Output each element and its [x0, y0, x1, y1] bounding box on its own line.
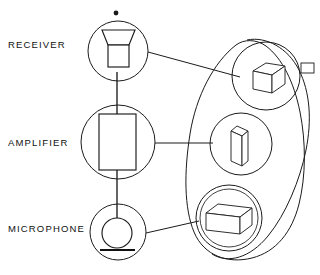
receiver-knob-icon [114, 11, 119, 16]
plate-component-group [210, 113, 272, 175]
receiver-horn-icon [102, 30, 135, 45]
connector-microphone-to-box [146, 221, 199, 233]
cube-component-tab-icon [301, 63, 314, 73]
isometric-cube-icon [253, 63, 285, 93]
rectangular-box-icon [206, 204, 252, 234]
diagram-canvas: RECEIVER AMPLIFIER MICROPHONE [0, 0, 320, 275]
connector-receiver-to-cube [148, 52, 240, 77]
receiver-symbol-group [88, 11, 148, 81]
receiver-body-icon [108, 45, 129, 67]
label-microphone: MICROPHONE [8, 223, 85, 234]
amplifier-symbol-group [81, 105, 155, 179]
amplifier-block-icon [99, 114, 136, 170]
label-amplifier: AMPLIFIER [8, 137, 69, 148]
thin-slab-panel-icon [231, 126, 248, 166]
microphone-symbol-group [90, 204, 146, 260]
diagram-root: RECEIVER AMPLIFIER MICROPHONE [0, 0, 320, 275]
box-component-group [196, 185, 262, 251]
label-receiver: RECEIVER [8, 39, 66, 50]
microphone-capsule-icon [102, 218, 132, 248]
